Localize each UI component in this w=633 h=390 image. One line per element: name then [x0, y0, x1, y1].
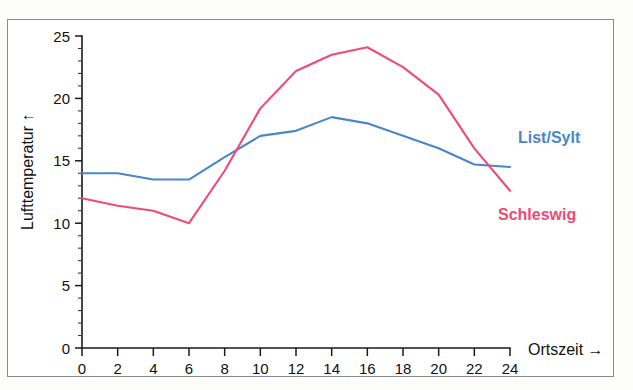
y-tick-label: 10	[53, 215, 70, 232]
tick-marks-group	[75, 36, 510, 356]
axis-spines	[82, 36, 510, 348]
x-tick-labels-group: 024681012141618202224	[78, 360, 519, 377]
data-series-group	[82, 47, 510, 223]
y-tick-label: 15	[53, 152, 70, 169]
y-tick-label: 0	[62, 340, 70, 357]
x-tick-label: 2	[113, 360, 121, 377]
y-tick-label: 20	[53, 90, 70, 107]
y-tick-label: 5	[62, 277, 70, 294]
y-tick-labels-group: 0510152025	[53, 28, 70, 357]
chart-plot-area: 0510152025 024681012141618202224 List/Sy…	[0, 0, 633, 390]
y-tick-label: 25	[53, 28, 70, 45]
axes-group	[82, 36, 510, 348]
x-tick-label: 10	[252, 360, 269, 377]
y-axis-title: Lufttemperatur ↑	[19, 114, 36, 231]
x-axis-title: Ortszeit →	[528, 341, 604, 358]
x-tick-label: 24	[502, 360, 519, 377]
series-line-schleswig	[82, 47, 510, 223]
x-tick-label: 20	[430, 360, 447, 377]
x-tick-label: 22	[466, 360, 483, 377]
x-tick-label: 18	[395, 360, 412, 377]
x-tick-label: 12	[288, 360, 305, 377]
x-tick-label: 14	[323, 360, 340, 377]
x-tick-label: 6	[185, 360, 193, 377]
x-tick-label: 0	[78, 360, 86, 377]
series-line-list-sylt	[82, 117, 510, 179]
x-tick-label: 8	[220, 360, 228, 377]
series-label-list-sylt: List/Sylt	[518, 129, 581, 146]
x-tick-label: 16	[359, 360, 376, 377]
figure-canvas: 0510152025 024681012141618202224 List/Sy…	[0, 0, 633, 390]
x-tick-label: 4	[149, 360, 157, 377]
series-label-schleswig: Schleswig	[498, 206, 576, 223]
series-annotations-group: List/SyltSchleswig	[498, 129, 581, 223]
